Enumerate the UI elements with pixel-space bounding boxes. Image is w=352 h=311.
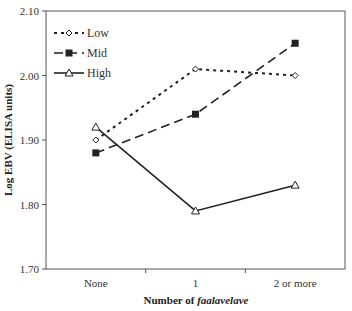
x-tick-label: 2 or more (274, 277, 317, 289)
square-marker-icon (66, 50, 73, 57)
square-marker-icon (292, 40, 299, 47)
y-tick-label: 1.80 (20, 199, 40, 211)
legend-label: Low (87, 26, 109, 40)
x-tick-label: None (84, 277, 108, 289)
x-axis-title: Number of faalavelave (144, 294, 249, 306)
x-axis-title-italic: faalavelave (197, 294, 248, 306)
legend-label: High (87, 66, 111, 80)
y-tick-label: 1.70 (20, 263, 40, 275)
x-axis-title-prefix: Number of (144, 294, 198, 306)
y-tick-label: 2.10 (20, 5, 40, 17)
x-tick-label: 1 (193, 277, 199, 289)
square-marker-icon (92, 149, 99, 156)
y-tick-label: 1.90 (20, 134, 40, 146)
y-axis: 1.701.801.902.002.10 (20, 5, 46, 275)
legend-label: Mid (87, 46, 107, 60)
x-axis: None12 or more (84, 269, 317, 289)
y-tick-label: 2.00 (20, 70, 40, 82)
y-axis-title: Log EBV (ELISA units) (2, 84, 15, 196)
square-marker-icon (192, 111, 199, 118)
line-chart: 1.701.801.902.002.10 None12 or more LowM… (0, 0, 352, 311)
